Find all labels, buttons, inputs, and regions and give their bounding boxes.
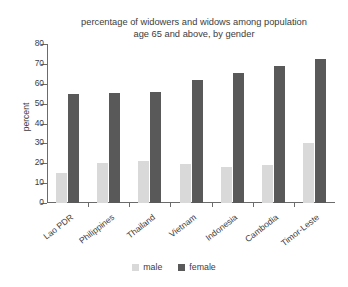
- category-label-vietnam: Vietnam: [148, 212, 198, 254]
- y-tick-label: 50: [35, 98, 44, 108]
- legend-item-male: male: [132, 262, 162, 272]
- bar-male-lao-pdr: [56, 173, 67, 203]
- legend-item-female: female: [178, 262, 215, 272]
- chart-title: percentage of widowers and widows among …: [48, 16, 340, 41]
- chart-legend: malefemale: [0, 262, 348, 272]
- x-tick-mark: [294, 203, 295, 207]
- bar-female-thailand: [150, 92, 161, 203]
- bar-male-thailand: [138, 161, 149, 203]
- x-tick-mark: [88, 203, 89, 207]
- bar-female-indonesia: [233, 73, 244, 203]
- bar-female-cambodia: [274, 66, 285, 203]
- bar-male-cambodia: [262, 165, 273, 203]
- bar-female-lao-pdr: [68, 94, 79, 203]
- x-tick-mark: [212, 203, 213, 207]
- plot-area: 01020304050607080: [47, 44, 335, 203]
- x-tick-mark: [253, 203, 254, 207]
- bar-group-vietnam: [180, 44, 203, 203]
- category-label-lao-pdr: Lao PDR: [24, 212, 74, 254]
- bar-female-philippines: [109, 93, 120, 203]
- bar-group-philippines: [97, 44, 120, 203]
- bar-group-cambodia: [262, 44, 285, 203]
- bar-male-indonesia: [221, 167, 232, 203]
- y-axis-label: percent: [21, 87, 31, 147]
- x-tick-mark: [170, 203, 171, 207]
- bar-group-indonesia: [221, 44, 244, 203]
- bar-female-vietnam: [192, 80, 203, 203]
- bar-group-lao-pdr: [56, 44, 79, 203]
- category-label-philippines: Philippines: [65, 212, 115, 254]
- legend-label-female: female: [189, 262, 215, 272]
- y-tick-label: 20: [35, 157, 44, 167]
- bar-female-timor-leste: [315, 59, 326, 203]
- y-tick-label: 0: [39, 197, 44, 207]
- bar-male-vietnam: [180, 164, 191, 203]
- category-label-thailand: Thailand: [107, 212, 157, 254]
- bar-group-timor-leste: [303, 44, 326, 203]
- bar-male-timor-leste: [303, 143, 314, 203]
- category-label-indonesia: Indonesia: [189, 212, 239, 254]
- y-tick-label: 40: [35, 118, 44, 128]
- bar-group-thailand: [138, 44, 161, 203]
- category-label-cambodia: Cambodia: [230, 212, 280, 254]
- y-tick-label: 10: [35, 177, 44, 187]
- y-tick-label: 30: [35, 137, 44, 147]
- y-axis-line: [47, 44, 48, 203]
- y-tick-label: 60: [35, 78, 44, 88]
- y-tick-label: 80: [35, 38, 44, 48]
- x-tick-mark: [129, 203, 130, 207]
- bar-male-philippines: [97, 163, 108, 203]
- legend-label-male: male: [143, 262, 162, 272]
- legend-swatch-male: [132, 264, 139, 271]
- y-tick-label: 70: [35, 58, 44, 68]
- legend-swatch-female: [178, 264, 185, 271]
- category-label-timor-leste: Timor-Leste: [271, 212, 321, 254]
- chart-figure: percentage of widowers and widows among …: [0, 0, 348, 287]
